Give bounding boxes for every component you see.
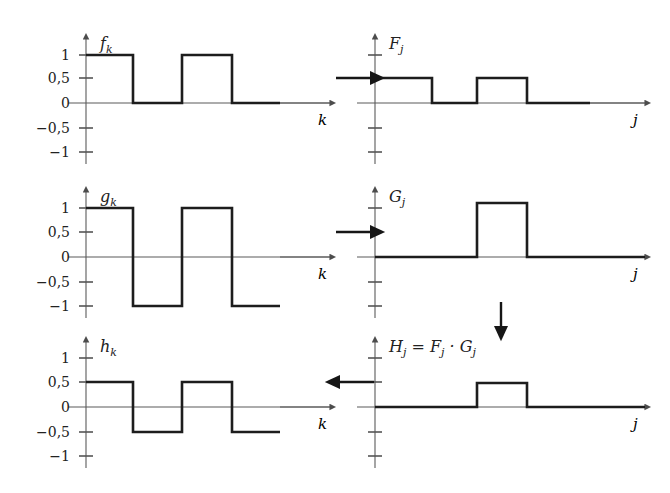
plot-gk: 10,50−0,5−1kgk bbox=[36, 187, 330, 318]
plot-Fj-title: Fj bbox=[388, 34, 404, 56]
plot-hk-tick-label-0: 1 bbox=[61, 350, 70, 366]
plot-Hj-title: Hj = Fj · Gj bbox=[388, 337, 477, 359]
plot-fk-waveform bbox=[86, 55, 280, 103]
plot-gk-title: gk bbox=[100, 187, 117, 209]
plot-fk-xlabel: k bbox=[318, 111, 327, 129]
plot-hk-title: hk bbox=[100, 337, 117, 359]
plot-gk-tick-label-4: −1 bbox=[49, 298, 70, 314]
plot-gk-tick-label-1: 0,5 bbox=[48, 224, 70, 240]
plot-gk-xlabel: k bbox=[318, 265, 327, 283]
plot-gk-tick-label-0: 1 bbox=[61, 200, 70, 216]
plot-Fj: jFj bbox=[357, 34, 645, 164]
plot-gk-tick-label-3: −0,5 bbox=[36, 274, 70, 290]
figure-canvas: 10,50−0,5−1kfkjFj10,50−0,5−1kgkjGj10,50−… bbox=[0, 0, 670, 493]
plot-Fj-xlabel: j bbox=[630, 111, 638, 129]
plot-hk: 10,50−0,5−1khk bbox=[36, 337, 330, 468]
plot-Hj: jHj = Fj · Gj bbox=[357, 337, 645, 468]
plot-hk-tick-label-1: 0,5 bbox=[48, 374, 70, 390]
plot-gk-tick-label-2: 0 bbox=[61, 249, 70, 265]
plot-hk-tick-label-2: 0 bbox=[61, 399, 70, 415]
signal-figure: 10,50−0,5−1kfkjFj10,50−0,5−1kgkjGj10,50−… bbox=[0, 0, 670, 493]
plot-hk-xlabel: k bbox=[318, 415, 327, 433]
plot-fk-tick-label-4: −1 bbox=[49, 144, 70, 160]
plot-fk-tick-label-2: 0 bbox=[61, 95, 70, 111]
plot-Fj-waveform bbox=[375, 78, 590, 103]
plot-hk-tick-label-4: −1 bbox=[49, 448, 70, 464]
plot-hk-tick-label-3: −0,5 bbox=[36, 424, 70, 440]
plot-Gj-waveform bbox=[375, 203, 645, 257]
plot-fk-tick-label-1: 0,5 bbox=[48, 70, 70, 86]
plot-fk: 10,50−0,5−1kfk bbox=[36, 34, 330, 164]
plot-Gj-xlabel: j bbox=[630, 265, 638, 283]
plot-Hj-waveform bbox=[375, 383, 645, 407]
plot-fk-tick-label-0: 1 bbox=[61, 47, 70, 63]
plot-Gj: jGj bbox=[357, 187, 645, 318]
plot-Hj-xlabel: j bbox=[630, 415, 638, 433]
plot-Gj-title: Gj bbox=[389, 187, 406, 209]
plot-fk-title: fk bbox=[99, 34, 113, 56]
plot-fk-tick-label-3: −0,5 bbox=[36, 120, 70, 136]
